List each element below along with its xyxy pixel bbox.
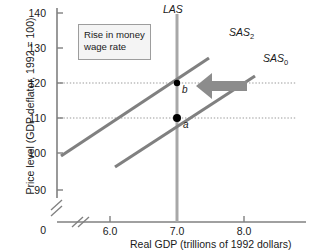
sas2-label: SAS2 bbox=[229, 27, 254, 41]
callout-line-2: wage rate bbox=[84, 41, 145, 53]
x-tick-label-7: 7.0 bbox=[162, 226, 192, 237]
sas0-label: SAS0 bbox=[263, 53, 288, 67]
y-axis-break-icon bbox=[51, 200, 62, 216]
point-a-label: a bbox=[183, 120, 189, 130]
sas0-label-sub: 0 bbox=[284, 58, 288, 67]
shift-arrow-icon bbox=[196, 73, 247, 99]
origin-label: 0 bbox=[12, 225, 46, 236]
point-b-label: b bbox=[182, 85, 188, 95]
point-a-dot bbox=[173, 114, 181, 122]
las-label-text: LAS bbox=[163, 3, 183, 15]
y-axis-title: Price level (GDP deflator, 1992 = 100) bbox=[24, 6, 36, 206]
as-shift-chart: 140 130 120 110 100 90 0 6.0 7.0 8.0 Pri… bbox=[0, 0, 314, 252]
chart-canvas bbox=[0, 0, 314, 252]
callout-rise-in-money-wage-rate: Rise in money wage rate bbox=[78, 24, 151, 60]
sas2-curve bbox=[61, 58, 209, 156]
y-axis-title-wrapper: Price level (GDP deflator, 1992 = 100) bbox=[0, 0, 22, 210]
sas2-label-sub: 2 bbox=[250, 32, 254, 41]
x-tick-label-8: 8.0 bbox=[229, 226, 259, 237]
sas0-label-text: SAS bbox=[263, 52, 284, 64]
point-b-dot bbox=[174, 80, 180, 86]
x-axis-title: Real GDP (trillions of 1992 dollars) bbox=[130, 239, 291, 250]
callout-line-1: Rise in money bbox=[84, 29, 145, 41]
sas2-label-text: SAS bbox=[229, 26, 250, 38]
las-label: LAS bbox=[163, 4, 183, 15]
x-tick-label-6: 6.0 bbox=[95, 226, 125, 237]
